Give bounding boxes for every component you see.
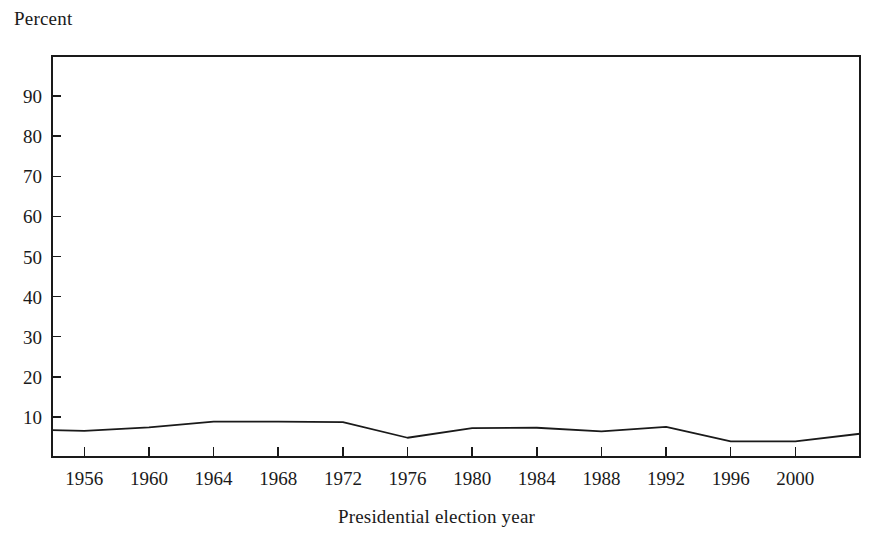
y-axis-tick-labels: 102030405060708090: [23, 86, 42, 428]
x-tick-label: 1984: [518, 468, 557, 489]
y-tick-label: 90: [23, 86, 42, 107]
x-tick-label: 1956: [65, 468, 103, 489]
x-tick-label: 1976: [389, 468, 427, 489]
y-tick-label: 10: [23, 407, 42, 428]
x-axis-title: Presidential election year: [0, 506, 873, 528]
y-tick-label: 50: [23, 247, 42, 268]
y-tick-label: 40: [23, 287, 42, 308]
x-tick-label: 1996: [712, 468, 750, 489]
y-tick-label: 80: [23, 126, 42, 147]
y-tick-label: 60: [23, 206, 42, 227]
x-tick-label: 1968: [259, 468, 297, 489]
x-tick-label: 1988: [582, 468, 620, 489]
data-series-line: [52, 422, 860, 442]
chart-figure: Percent 102030405060708090 1956196019641…: [0, 0, 873, 551]
x-tick-label: 1960: [130, 468, 168, 489]
x-tick-label: 2000: [776, 468, 814, 489]
x-axis-tick-labels: 1956196019641968197219761980198419881992…: [65, 468, 814, 489]
x-tick-label: 1992: [647, 468, 685, 489]
line-chart-plot: 102030405060708090 195619601964196819721…: [0, 0, 873, 551]
y-axis-ticks: [52, 96, 61, 417]
y-tick-label: 20: [23, 367, 42, 388]
y-tick-label: 30: [23, 327, 42, 348]
x-tick-label: 1964: [195, 468, 234, 489]
x-tick-label: 1980: [453, 468, 491, 489]
plot-frame: [52, 56, 860, 457]
x-tick-label: 1972: [324, 468, 362, 489]
y-tick-label: 70: [23, 166, 42, 187]
x-axis-ticks: [84, 447, 860, 457]
